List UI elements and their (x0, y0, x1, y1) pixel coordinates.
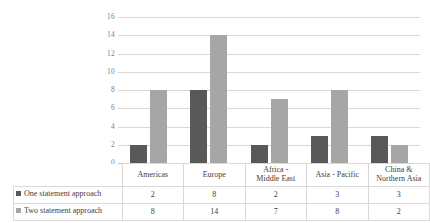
bar-series-two (150, 90, 167, 163)
table-cell-value: 2 (368, 204, 430, 221)
y-axis-tick-label: 8 (96, 86, 115, 94)
category-label-line: Asia - Pacific (308, 171, 367, 180)
table-cell-value: 3 (307, 187, 369, 204)
table-row-series-one: One statement approach 2 8 2 3 3 (14, 187, 430, 204)
y-axis-tick-label: 16 (96, 13, 115, 21)
category-label-line: Middle East (247, 175, 306, 184)
bar-group (178, 17, 238, 163)
bar-series-one (311, 136, 328, 163)
legend-swatch-icon (16, 208, 21, 213)
chart-data-table: Americas Europe Africa - Middle East Asi… (13, 163, 430, 221)
legend-item-series-one: One statement approach (14, 187, 123, 204)
bar-series-one (190, 90, 207, 163)
y-axis-tick-label: 10 (96, 68, 115, 76)
table-cell-value: 2 (245, 187, 307, 204)
bar-series-one (130, 145, 147, 163)
category-header-cell: Americas (122, 164, 184, 187)
table-cell-value: 3 (368, 187, 430, 204)
table-cell-value: 8 (184, 187, 246, 204)
y-axis-tick-label: 2 (96, 141, 115, 149)
table-corner-cell (14, 164, 123, 187)
category-label-line: Northern Asia (370, 175, 429, 184)
legend-label: One statement approach (24, 189, 101, 198)
bar-series-two (391, 145, 408, 163)
y-axis-tick-label: 12 (96, 50, 115, 58)
category-label-line: Europe (185, 171, 244, 180)
plot-area (118, 17, 420, 163)
bars-layer (118, 17, 420, 163)
bar-series-two (210, 35, 227, 163)
category-header-cell: Africa - Middle East (245, 164, 307, 187)
bar-group (118, 17, 178, 163)
table-row-series-two: Two statement approach 8 14 7 8 2 (14, 204, 430, 221)
category-label-line: Americas (124, 171, 183, 180)
table-cell-value: 2 (122, 187, 184, 204)
table-cell-value: 7 (245, 204, 307, 221)
table-cell-value: 8 (307, 204, 369, 221)
legend-swatch-icon (16, 191, 21, 196)
bar-series-two (331, 90, 348, 163)
table-row-categories: Americas Europe Africa - Middle East Asi… (14, 164, 430, 187)
category-header-cell: Europe (184, 164, 246, 187)
bar-series-one (371, 136, 388, 163)
category-header-cell: Asia - Pacific (307, 164, 369, 187)
bar-group (360, 17, 420, 163)
category-header-cell: China & Northern Asia (368, 164, 430, 187)
bar-group (239, 17, 299, 163)
legend-item-series-two: Two statement approach (14, 204, 123, 221)
y-axis-tick-label: 4 (96, 123, 115, 131)
legend-label: Two statement approach (24, 206, 102, 215)
bar-series-two (271, 99, 288, 163)
y-axis-tick-label: 14 (96, 31, 115, 39)
table-cell-value: 14 (184, 204, 246, 221)
y-axis-tick-label: 6 (96, 104, 115, 112)
bar-group (299, 17, 359, 163)
bar-series-one (251, 145, 268, 163)
bar-chart-with-data-table: 16 14 12 10 8 6 4 2 0 (0, 0, 430, 223)
table-cell-value: 8 (122, 204, 184, 221)
